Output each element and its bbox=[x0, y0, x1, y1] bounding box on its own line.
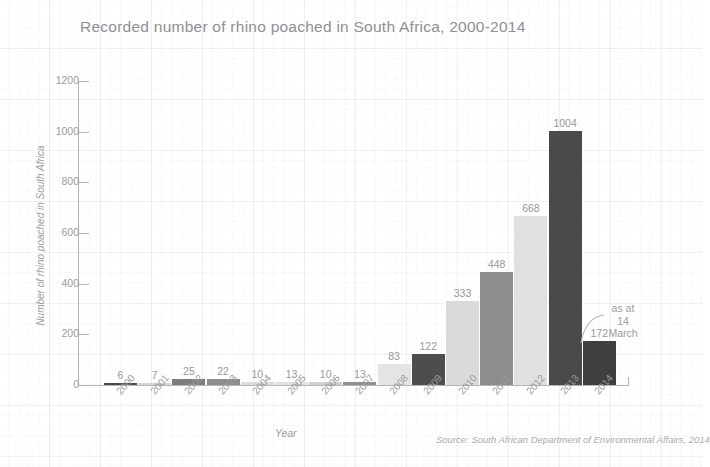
x-axis-end-tick bbox=[628, 377, 629, 386]
y-axis-tick-label-wrap: 0 bbox=[29, 385, 79, 386]
bar-value-label-2010: 333 bbox=[440, 287, 486, 299]
annotation-line-3: March bbox=[608, 327, 637, 339]
y-axis-title: Number of rhino poached in South Africa bbox=[35, 121, 46, 351]
chart-title: Recorded number of rhino poached in Sout… bbox=[80, 18, 526, 36]
bar-value-label-2013: 1004 bbox=[542, 117, 588, 129]
bar-2013[interactable] bbox=[549, 131, 582, 385]
bar-value-label-2007: 13 bbox=[337, 368, 383, 380]
x-axis-title: Year bbox=[275, 427, 297, 439]
annotation-line-2: 14 bbox=[617, 315, 629, 327]
y-axis-tick bbox=[79, 385, 89, 386]
source-note: Source: South African Department of Envi… bbox=[436, 434, 710, 445]
bar-2010[interactable] bbox=[446, 301, 479, 385]
y-axis-tick-label-wrap: 1200 bbox=[29, 81, 79, 82]
plot-area: 67252210131013831223334486681004172 bbox=[78, 81, 628, 385]
annotation-line-1: as at bbox=[612, 302, 635, 314]
bar-2012[interactable] bbox=[514, 216, 547, 385]
y-axis-tick-label: 1200 bbox=[39, 74, 79, 86]
bar-value-label-2011: 448 bbox=[474, 258, 520, 270]
bar-value-label-2012: 668 bbox=[508, 202, 554, 214]
y-axis-tick-label: 0 bbox=[39, 378, 79, 390]
annotation-label: as at 14 March bbox=[596, 302, 650, 340]
bar-value-label-2009: 122 bbox=[405, 340, 451, 352]
bar-2011[interactable] bbox=[480, 272, 513, 385]
